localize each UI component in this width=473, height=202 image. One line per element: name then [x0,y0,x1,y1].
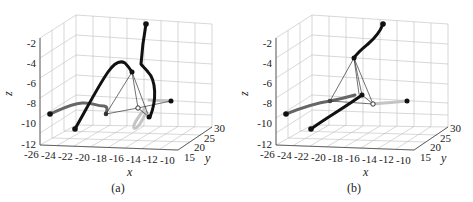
z-tick: -2 [263,37,272,49]
x-tick: -18 [92,152,107,164]
node [328,99,333,104]
light-gray-trajectory [373,101,407,104]
caption-b: (b) [236,181,472,196]
node [130,70,135,75]
x-axis-ticks: -26 -24 -22 -20 -18 -16 -14 -12 -10 [24,148,175,166]
plot-panel-a: -2 -4 -6 -8 -10 -12 z -26 -24 -22 -20 -1… [0,0,236,202]
z-tick: -4 [263,57,273,69]
z-axis-label: z [1,91,15,97]
y-axis-label: y [440,151,447,165]
x-tick: -12 [379,153,394,165]
z-tick: -10 [21,117,36,129]
x-tick: -20 [311,151,326,163]
plot-a-svg: -2 -4 -6 -8 -10 -12 z -26 -24 -22 -20 -1… [0,0,236,180]
node [136,106,140,110]
black-trajectory-2 [354,24,383,58]
dark-gray-trajectory [50,103,107,114]
x-tick: -26 [24,148,39,160]
axis-lines [40,38,212,150]
z-tick: -8 [263,97,273,109]
data-nodes [283,21,409,132]
node [380,21,386,27]
x-tick: -10 [396,154,411,166]
z-axis-ticks: -2 -4 -6 -8 -10 -12 [257,37,272,150]
y-axis-label: y [204,151,211,165]
x-tick: -14 [126,153,141,165]
x-tick: -18 [328,152,343,164]
node [405,99,410,104]
z-axis-label: z [237,91,251,97]
plot-panel-b: -2 -4 -6 -8 -10 -12 z -26 -24 -22 -20 -1… [236,0,472,202]
x-tick: -24 [41,149,56,161]
y-tick: 30 [214,122,226,134]
node [147,115,152,120]
x-tick: -26 [260,148,275,160]
node [371,102,375,106]
x-tick: -22 [58,150,73,162]
node [169,99,174,104]
data-nodes [47,21,173,132]
plot-b-svg: -2 -4 -6 -8 -10 -12 z -26 -24 -22 -20 -1… [236,0,472,180]
x-axis-label: x [126,165,133,179]
z-tick: -10 [257,117,272,129]
node [143,21,149,27]
x-axis-label: x [362,165,369,179]
node [352,56,357,61]
node [283,111,289,117]
x-tick: -20 [75,151,90,163]
grid-lines [40,15,212,150]
z-tick: -6 [263,77,273,89]
z-tick: -2 [27,37,36,49]
y-tick: 30 [450,122,462,134]
x-tick: -10 [160,154,175,166]
x-tick: -14 [362,153,377,165]
node [104,112,109,117]
x-axis-ticks: -26 -24 -22 -20 -18 -16 -14 -12 -10 [260,148,411,166]
x-tick: -16 [345,152,360,164]
z-tick: -6 [27,77,37,89]
x-tick: -24 [277,149,292,161]
x-tick: -12 [143,153,158,165]
z-axis-ticks: -2 -4 -6 -8 -10 -12 [21,37,36,150]
caption-a: (a) [0,181,236,196]
z-tick: -8 [27,97,37,109]
z-tick: -4 [27,57,37,69]
node [47,111,53,117]
grid-lines [276,15,448,150]
node [72,126,78,132]
node [308,126,314,132]
node [360,93,365,98]
x-tick: -16 [109,152,124,164]
black-trajectory-2 [141,24,155,117]
x-tick: -22 [294,150,309,162]
